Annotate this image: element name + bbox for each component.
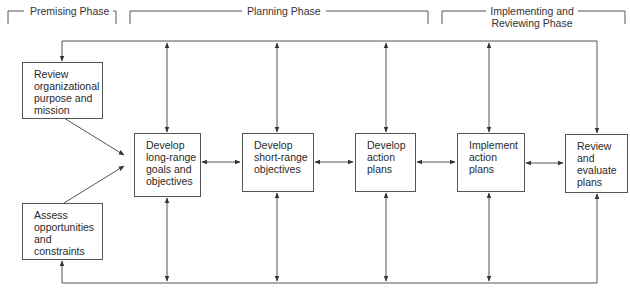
premising-phase-label: Premising Phase [26, 5, 113, 17]
assess-opportunities-text: Assess opportunities and constraints [34, 209, 102, 257]
implement-plans-box: Implement action plans [457, 133, 525, 192]
assess-opportunities-box: Assess opportunities and constraints [22, 203, 103, 260]
implement-plans-text: Implement action plans [469, 139, 524, 175]
review-purpose-box: Review organizational purpose and missio… [22, 62, 103, 119]
action-plans-box: Develop action plans [355, 133, 416, 192]
review-evaluate-text: Review and evaluate plans [577, 140, 627, 188]
long-range-goals-box: Develop long-range goals and objectives [134, 133, 201, 197]
implementing-phase-label-line1: Implementing and [490, 5, 574, 17]
implementing-phase-label: Implementing and Reviewing Phase [486, 5, 578, 29]
review-evaluate-box: Review and evaluate plans [565, 134, 628, 193]
review-purpose-text: Review organizational purpose and missio… [34, 68, 102, 116]
short-range-objectives-box: Develop short-range objectives [242, 133, 314, 192]
action-plans-text: Develop action plans [367, 139, 415, 175]
implementing-phase-label-line2: Reviewing Phase [490, 17, 574, 29]
planning-phase-label: Planning Phase [243, 5, 325, 17]
short-range-objectives-text: Develop short-range objectives [254, 139, 313, 175]
long-range-goals-text: Develop long-range goals and objectives [146, 139, 200, 187]
